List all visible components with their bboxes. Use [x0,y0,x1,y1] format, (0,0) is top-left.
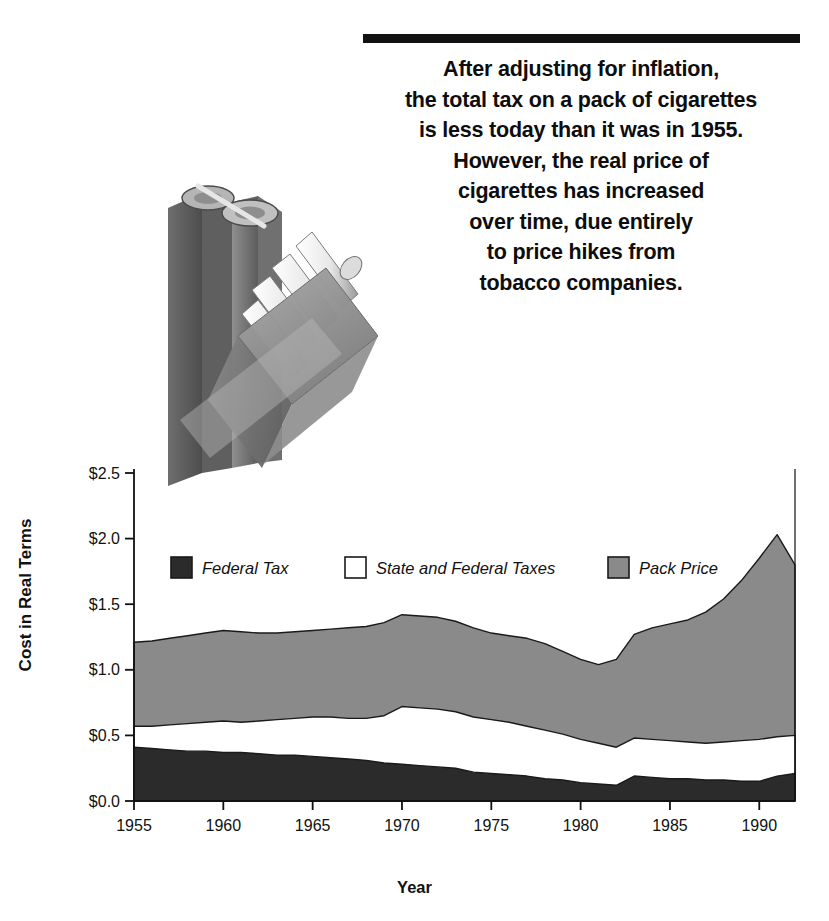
y-tick-label: $1.5 [89,596,120,613]
headline-line-1: After adjusting for inflation, [360,54,802,85]
headline-block: After adjusting for inflation, the total… [360,34,802,298]
y-tick-label: $2.5 [89,465,120,482]
stacked-area-chart: $0.0$0.5$1.0$1.5$2.0$2.5 195519601965197… [0,452,829,852]
x-tick-label: 1955 [116,817,152,834]
x-axis-title: Year [0,878,829,897]
y-tick-label: $2.0 [89,530,120,547]
legend-label-federal-tax: Federal Tax [202,559,289,577]
headline-text: After adjusting for inflation, the total… [360,54,802,298]
chart-canvas: $0.0$0.5$1.0$1.5$2.0$2.5 195519601965197… [0,452,829,852]
headline-line-5: cigarettes has increased [360,176,802,207]
chart-legend: Federal TaxState and Federal TaxesPack P… [171,557,718,578]
x-tick-label: 1960 [206,817,242,834]
headline-line-4: However, the real price of [360,146,802,177]
legend-label-state-and-federal-taxes: State and Federal Taxes [376,559,555,577]
y-tick-labels: $0.0$0.5$1.0$1.5$2.0$2.5 [89,465,134,810]
y-tick-label: $0.0 [89,793,120,810]
headline-line-8: tobacco companies. [360,268,802,299]
x-tick-label: 1985 [652,817,688,834]
legend-swatch-pack-price [608,557,629,578]
legend-swatch-federal-tax [171,557,192,578]
y-axis-title: Cost in Real Terms [16,485,36,705]
legend-swatch-state-and-federal-taxes [345,557,366,578]
x-tick-label: 1990 [741,817,777,834]
x-tick-labels: 19551960196519701975198019851990 [116,801,777,834]
y-tick-label: $0.5 [89,727,120,744]
x-tick-label: 1975 [474,817,510,834]
headline-line-7: to price hikes from [360,237,802,268]
x-tick-label: 1970 [384,817,420,834]
headline-line-2: the total tax on a pack of cigarettes [360,85,802,116]
headline-line-3: is less today than it was in 1955. [360,115,802,146]
headline-line-6: over time, due entirely [360,207,802,238]
y-tick-label: $1.0 [89,661,120,678]
legend-label-pack-price: Pack Price [639,559,718,577]
x-tick-label: 1965 [295,817,331,834]
x-tick-label: 1980 [563,817,599,834]
headline-rule [363,34,800,43]
